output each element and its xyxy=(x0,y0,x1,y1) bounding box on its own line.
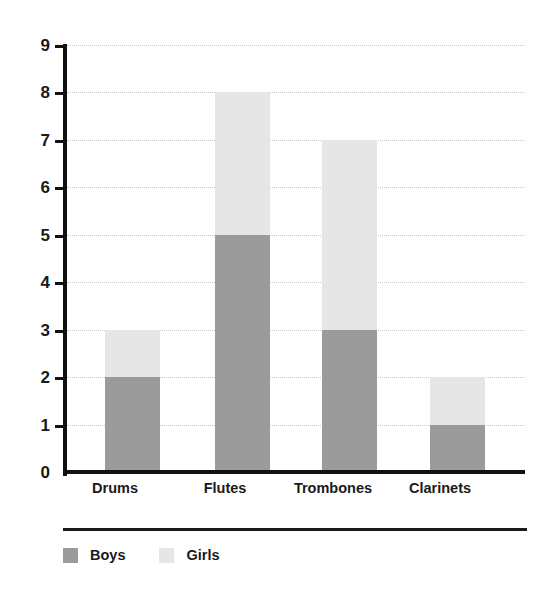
bar-segment-girls xyxy=(105,330,160,377)
y-tick-label: 6 xyxy=(28,179,50,196)
gridline-6 xyxy=(67,187,525,188)
y-tick-mark-8 xyxy=(55,92,65,95)
y-tick-label: 0 xyxy=(28,464,50,481)
y-tick-label: 2 xyxy=(28,369,50,386)
plot-area xyxy=(67,45,525,472)
legend: Boys Girls xyxy=(63,544,254,566)
gridline-9 xyxy=(67,45,525,46)
legend-item-girls: Girls xyxy=(159,548,219,563)
legend-swatch-girls xyxy=(159,548,174,563)
x-axis-label-flutes: Flutes xyxy=(185,481,265,497)
legend-separator-rule xyxy=(63,528,527,531)
x-axis-line xyxy=(63,470,525,474)
legend-swatch-boys xyxy=(63,548,78,563)
y-tick-mark-4 xyxy=(55,282,65,285)
y-tick-label: 1 xyxy=(28,417,50,434)
gridline-5 xyxy=(67,235,525,236)
gridline-7 xyxy=(67,140,525,141)
y-tick-label: 5 xyxy=(28,227,50,244)
x-axis-label-trombones: Trombones xyxy=(278,481,388,497)
gridline-8 xyxy=(67,92,525,93)
bar-segment-girls xyxy=(215,92,270,234)
gridline-4 xyxy=(67,282,525,283)
y-tick-mark-9 xyxy=(55,45,65,48)
y-axis-line xyxy=(63,44,67,476)
y-tick-mark-5 xyxy=(55,235,65,238)
y-tick-mark-6 xyxy=(55,187,65,190)
y-tick-mark-2 xyxy=(55,377,65,380)
bar-trombones xyxy=(322,140,377,472)
y-tick-mark-3 xyxy=(55,330,65,333)
legend-item-boys: Boys xyxy=(63,548,125,563)
y-tick-label: 4 xyxy=(28,274,50,291)
y-axis-tick-labels: 9 8 7 6 5 4 3 2 1 0 xyxy=(0,0,50,590)
bar-segment-girls xyxy=(430,377,485,424)
y-tick-mark-1 xyxy=(55,425,65,428)
x-axis-label-drums: Drums xyxy=(75,481,155,497)
bar-segment-boys xyxy=(215,235,270,472)
y-tick-label: 7 xyxy=(28,132,50,149)
legend-label-girls: Girls xyxy=(186,548,219,563)
stacked-bar-chart: 9 8 7 6 5 4 3 2 1 0 Drums Flutes Trombon… xyxy=(0,0,549,590)
bar-drums xyxy=(105,330,160,472)
legend-label-boys: Boys xyxy=(90,548,125,563)
x-axis-label-clarinets: Clarinets xyxy=(390,481,490,497)
y-tick-label: 8 xyxy=(28,84,50,101)
bar-segment-boys xyxy=(322,330,377,472)
bar-clarinets xyxy=(430,377,485,472)
bar-flutes xyxy=(215,92,270,472)
y-tick-label: 3 xyxy=(28,322,50,339)
y-tick-label: 9 xyxy=(28,37,50,54)
y-tick-mark-7 xyxy=(55,140,65,143)
bar-segment-girls xyxy=(322,140,377,330)
bar-segment-boys xyxy=(430,425,485,472)
bar-segment-boys xyxy=(105,377,160,472)
